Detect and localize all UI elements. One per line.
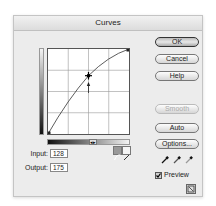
- cancel-button[interactable]: Cancel: [155, 54, 199, 64]
- eyedropper-icon: [173, 156, 181, 164]
- black-eyedropper-button[interactable]: [161, 156, 169, 164]
- eyedropper-icon: [185, 156, 193, 164]
- pencil-mode-button[interactable]: [122, 146, 131, 155]
- input-gradient-bar: ◂▸: [47, 139, 130, 145]
- ok-button[interactable]: OK: [155, 37, 199, 47]
- curve-graph[interactable]: [47, 48, 130, 135]
- output-gradient-bar: [39, 48, 44, 135]
- preview-checkbox[interactable]: [155, 172, 162, 179]
- gradient-toggle-button[interactable]: ◂▸: [89, 139, 97, 145]
- input-field[interactable]: 128: [50, 149, 68, 158]
- curve-mode-button[interactable]: [113, 146, 122, 155]
- input-label: Input:: [18, 150, 48, 157]
- output-field[interactable]: 175: [50, 163, 68, 172]
- expand-icon: [187, 185, 195, 193]
- auto-button[interactable]: Auto: [155, 123, 199, 133]
- curve-tool-icon: [114, 154, 121, 161]
- gray-eyedropper-button[interactable]: [173, 156, 181, 164]
- output-label: Output:: [18, 164, 48, 171]
- help-button[interactable]: Help: [155, 71, 199, 81]
- preview-label: Preview: [164, 171, 189, 178]
- curve-svg: [48, 49, 129, 134]
- eyedropper-icon: [161, 156, 169, 164]
- pencil-tool-icon: [123, 154, 130, 161]
- expand-dialog-button[interactable]: [186, 184, 196, 194]
- white-eyedropper-button[interactable]: [185, 156, 193, 164]
- curves-dialog: Curves ◂▸ Input: 128 Output: 175: [13, 15, 203, 197]
- smooth-button[interactable]: Smooth: [155, 104, 199, 114]
- dialog-title: Curves: [14, 16, 202, 31]
- checkmark-icon: [156, 173, 161, 178]
- options-button[interactable]: Options...: [155, 139, 199, 149]
